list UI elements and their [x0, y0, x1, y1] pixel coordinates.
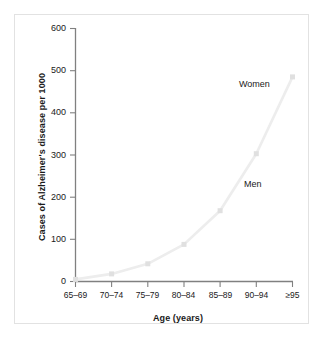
data-point	[290, 74, 295, 79]
y-ticks	[70, 29, 76, 282]
series-markers	[73, 74, 295, 282]
chart-svg	[0, 0, 324, 339]
ytick-label-600: 600	[36, 23, 66, 33]
y-axis-title: Cases of Alzheimer's disease per 1000	[37, 37, 47, 277]
x-ticks	[76, 282, 293, 288]
ytick-label-0: 0	[36, 276, 66, 286]
figure: 600 500 400 300 200 100 0 65–69 70–74 75…	[0, 0, 324, 339]
data-point	[145, 261, 150, 266]
x-axis-title: Age (years)	[63, 313, 293, 323]
plot-area: 600 500 400 300 200 100 0 65–69 70–74 75…	[0, 0, 324, 339]
data-point	[73, 277, 78, 282]
xtick-label-ge95: ≥95	[272, 290, 313, 300]
data-point	[218, 208, 223, 213]
data-point	[109, 271, 114, 276]
data-point	[254, 151, 259, 156]
data-point	[182, 242, 187, 247]
annotation-women: Women	[239, 79, 270, 89]
annotation-men: Men	[244, 179, 262, 189]
